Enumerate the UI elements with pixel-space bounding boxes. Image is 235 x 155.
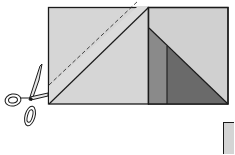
partial-square <box>224 123 235 155</box>
left-square <box>49 1 149 104</box>
right-square <box>149 8 229 105</box>
scissors-icon <box>4 64 48 127</box>
sewing-diagram <box>0 0 234 154</box>
